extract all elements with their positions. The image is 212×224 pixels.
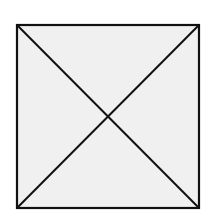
diagram-canvas [0,0,212,224]
